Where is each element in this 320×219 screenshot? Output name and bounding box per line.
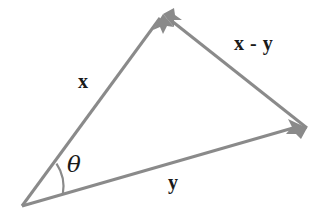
vector-x-minus-y-arrow bbox=[163, 8, 307, 128]
vector-diagram-figure: x y x - y θ bbox=[0, 0, 320, 219]
angle-arc bbox=[57, 164, 64, 195]
vector-x-arrow bbox=[22, 14, 174, 206]
vector-label-x: x bbox=[78, 71, 88, 91]
vector-x-shaft bbox=[22, 18, 160, 206]
vector-label-y: y bbox=[168, 172, 178, 192]
angle-label-theta: θ bbox=[67, 153, 81, 176]
vector-label-x-minus-y: x - y bbox=[234, 33, 273, 53]
vector-y-arrow bbox=[22, 119, 307, 206]
